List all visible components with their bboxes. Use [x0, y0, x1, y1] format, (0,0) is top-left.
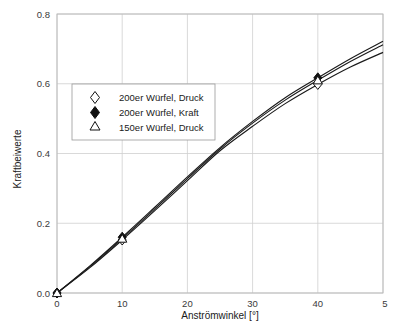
x-tick-label: 30: [247, 298, 258, 309]
legend-item-label: 200er Würfel, Druck: [119, 92, 204, 103]
legend-item-label: 150er Würfel, Druck: [119, 122, 204, 133]
chart-canvas: 0.8 0.6 0.4 0.2 0.0 0 10 20 30 40 5 Anst…: [0, 0, 394, 324]
x-axis-tick-labels: 0 10 20 30 40 5: [54, 298, 387, 309]
x-axis-title: Anströmwinkel [°]: [181, 310, 259, 321]
y-tick-label: 0.4: [37, 148, 50, 159]
x-tick-label: 40: [313, 298, 324, 309]
y-tick-label: 0.6: [37, 78, 50, 89]
y-axis-title: Kraftbeiwerte: [12, 129, 23, 188]
legend-item-label: 200er Würfel, Kraft: [119, 107, 199, 118]
y-tick-label: 0.0: [37, 288, 50, 299]
x-tick-label: 20: [182, 298, 193, 309]
x-tick-label: 0: [54, 298, 59, 309]
y-axis-tick-labels: 0.8 0.6 0.4 0.2 0.0: [37, 9, 50, 299]
y-tick-label: 0.2: [37, 218, 50, 229]
x-tick-label: 10: [117, 298, 128, 309]
x-tick-label: 5: [382, 298, 387, 309]
y-tick-label: 0.8: [37, 9, 50, 20]
chart-figure: 0.8 0.6 0.4 0.2 0.0 0 10 20 30 40 5 Anst…: [0, 0, 394, 324]
chart-legend: 200er Würfel, Druck 200er Würfel, Kraft …: [72, 84, 215, 140]
